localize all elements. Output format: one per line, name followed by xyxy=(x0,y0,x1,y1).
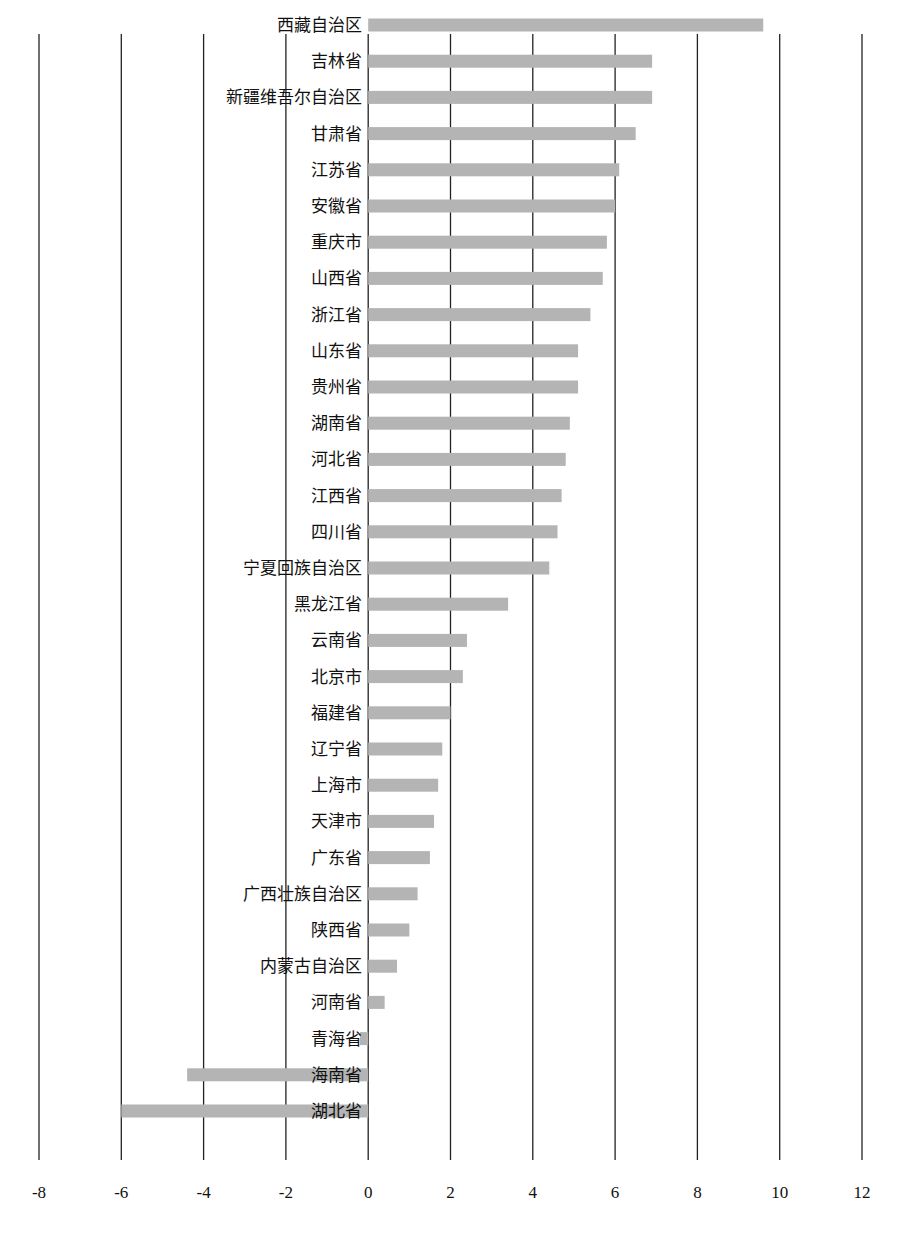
bar xyxy=(368,924,409,937)
bar xyxy=(368,55,652,68)
category-label: 西藏自治区 xyxy=(277,15,362,35)
category-label: 安徽省 xyxy=(311,196,362,216)
bar xyxy=(368,670,463,683)
bar xyxy=(368,743,442,756)
category-label: 辽宁省 xyxy=(311,739,362,759)
category-label: 青海省 xyxy=(311,1029,362,1049)
category-label: 广东省 xyxy=(311,848,362,868)
bar xyxy=(368,19,763,32)
x-tick-label: -2 xyxy=(279,1183,293,1202)
bar xyxy=(368,815,434,828)
bars xyxy=(121,19,763,1118)
category-label: 湖北省 xyxy=(311,1101,362,1121)
category-label: 内蒙古自治区 xyxy=(260,956,362,976)
bar xyxy=(368,489,561,502)
bar xyxy=(368,344,578,357)
bar xyxy=(368,163,619,176)
x-tick-label: 10 xyxy=(771,1183,788,1202)
category-label: 河北省 xyxy=(311,449,362,469)
bar xyxy=(368,453,566,466)
bar xyxy=(368,779,438,792)
bar xyxy=(368,887,417,900)
category-label: 山东省 xyxy=(311,341,362,361)
category-label: 湖南省 xyxy=(311,413,362,433)
category-label: 黑龙江省 xyxy=(294,594,362,614)
horizontal-bar-chart: 西藏自治区吉林省新疆维吾尔自治区甘肃省江苏省安徽省重庆市山西省浙江省山东省贵州省… xyxy=(0,0,897,1245)
category-label: 浙江省 xyxy=(311,305,362,325)
bar xyxy=(368,960,397,973)
category-label: 北京市 xyxy=(311,667,362,687)
category-label: 上海市 xyxy=(311,775,362,795)
category-label: 新疆维吾尔自治区 xyxy=(226,87,362,107)
bar xyxy=(368,91,652,104)
bar xyxy=(368,308,590,321)
category-label: 江西省 xyxy=(311,486,362,506)
category-label: 广西壮族自治区 xyxy=(243,884,362,904)
category-label: 天津市 xyxy=(311,811,362,831)
bar xyxy=(368,417,570,430)
category-label: 福建省 xyxy=(311,703,362,723)
bar xyxy=(368,996,384,1009)
category-label: 贵州省 xyxy=(311,377,362,397)
bar xyxy=(368,598,508,611)
category-label: 四川省 xyxy=(311,522,362,542)
category-label: 陕西省 xyxy=(311,920,362,940)
category-labels: 西藏自治区吉林省新疆维吾尔自治区甘肃省江苏省安徽省重庆市山西省浙江省山东省贵州省… xyxy=(226,15,362,1121)
x-tick-label: -8 xyxy=(32,1183,46,1202)
bar xyxy=(368,381,578,394)
category-label: 甘肃省 xyxy=(311,124,362,144)
category-label: 河南省 xyxy=(311,992,362,1012)
bar xyxy=(368,236,607,249)
bar xyxy=(368,851,430,864)
bar xyxy=(368,272,603,285)
x-tick-label: -4 xyxy=(197,1183,212,1202)
x-tick-label: 4 xyxy=(529,1183,538,1202)
bar xyxy=(368,706,450,719)
x-tick-label: 8 xyxy=(693,1183,702,1202)
bar xyxy=(368,634,467,647)
category-label: 宁夏回族自治区 xyxy=(243,558,362,578)
category-label: 重庆市 xyxy=(311,232,362,252)
bar xyxy=(368,127,635,140)
category-label: 吉林省 xyxy=(311,51,362,71)
x-tick-label: 0 xyxy=(364,1183,373,1202)
x-tick-label: -6 xyxy=(114,1183,128,1202)
category-label: 江苏省 xyxy=(311,160,362,180)
bar xyxy=(368,200,615,213)
x-tick-label: 12 xyxy=(854,1183,871,1202)
bar xyxy=(368,562,549,575)
x-tick-label: 2 xyxy=(446,1183,455,1202)
category-label: 山西省 xyxy=(311,268,362,288)
bar xyxy=(368,525,557,538)
category-label: 海南省 xyxy=(311,1065,362,1085)
category-label: 云南省 xyxy=(311,630,362,650)
x-tick-label: 6 xyxy=(611,1183,620,1202)
x-tick-labels: -8-6-4-2024681012 xyxy=(32,1183,871,1202)
